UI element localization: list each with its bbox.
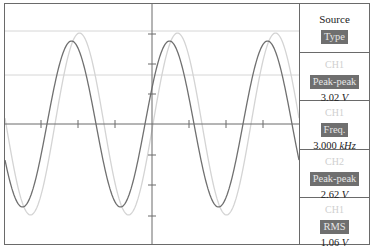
waveform-graticule: [5, 4, 299, 244]
menu-item-ch1-freq[interactable]: CH1 Freq. 3.000 kHz: [300, 101, 369, 150]
type-label: Type: [321, 30, 348, 44]
menu-item-source-type[interactable]: Source Type: [300, 4, 369, 53]
menu-item-ch2-peak-peak[interactable]: CH2 Peak-peak 2.62 V: [300, 150, 369, 198]
measurement-type: Freq.: [321, 123, 349, 137]
channel-label: CH2: [300, 156, 369, 168]
measurement-type: Peak-peak: [310, 75, 360, 89]
channel-label: CH1: [300, 107, 369, 119]
source-label: Source: [300, 13, 369, 26]
measurement-type: Peak-peak: [310, 172, 360, 186]
measure-menu: Source Type CH1 Peak-peak 3.02 V CH1 Fre…: [299, 3, 370, 245]
channel-label: CH1: [300, 204, 369, 216]
menu-item-ch1-rms[interactable]: CH1 RMS 1.06 V: [300, 198, 369, 244]
menu-item-ch1-peak-peak[interactable]: CH1 Peak-peak 3.02 V: [300, 53, 369, 101]
measurement-type: RMS: [320, 220, 348, 234]
channel-label: CH1: [300, 59, 369, 71]
status-bar: [0, 246, 373, 251]
oscilloscope-display: [4, 3, 300, 245]
